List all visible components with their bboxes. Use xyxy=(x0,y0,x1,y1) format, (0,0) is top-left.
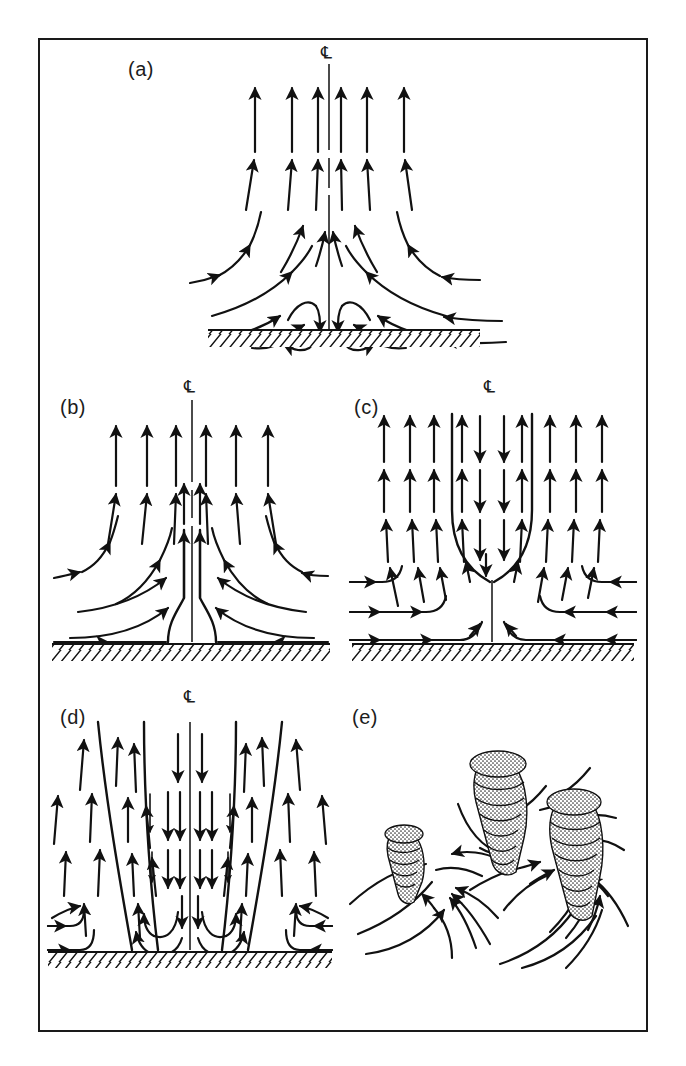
panel-d: (d) ℄ xyxy=(40,682,340,974)
panel-c-label: (c) xyxy=(354,396,379,419)
panel-e-funnel-left xyxy=(385,825,424,904)
panel-b: (b) ℄ xyxy=(40,370,340,670)
panel-e-label: (e) xyxy=(352,706,378,729)
panel-c-outer-updraft-right xyxy=(538,416,602,602)
panel-d-label: (d) xyxy=(60,706,86,729)
panel-d-ground xyxy=(48,952,332,968)
panel-a-label: (a) xyxy=(128,58,154,81)
panel-c-inner-updraft-arrows xyxy=(462,416,522,582)
panel-e-multiple-vortex-diagram xyxy=(340,682,646,974)
panel-c-inflow-right xyxy=(504,566,636,640)
panel-c: (c) ℄ xyxy=(340,370,646,670)
panel-e-funnel-right xyxy=(547,789,603,920)
panel-b-ground xyxy=(52,644,330,661)
panel-b-streamlines-right xyxy=(212,516,314,638)
panel-b-streamlines-left xyxy=(70,516,172,638)
panel-c-centerline-symbol: ℄ xyxy=(484,378,495,395)
figure-frame: (a) ℄ xyxy=(38,38,648,1032)
panel-a-centerline-symbol: ℄ xyxy=(321,44,332,61)
panel-c-ground xyxy=(352,644,634,661)
panel-d-centerline-symbol: ℄ xyxy=(184,688,195,705)
panel-c-inflow-left xyxy=(350,566,482,640)
panel-c-downdraft-arrows xyxy=(480,416,504,576)
panel-e: (e) xyxy=(340,682,646,974)
panel-b-label: (b) xyxy=(60,396,86,419)
panel-a-streamlines-right xyxy=(333,212,448,340)
panel-e-funnel-middle xyxy=(470,751,527,875)
panel-c-flow-diagram xyxy=(340,370,646,670)
panel-d-updraft-arrows-right xyxy=(224,738,326,938)
panel-b-inflow-arrows xyxy=(54,572,328,578)
panel-c-outer-updraft-left xyxy=(384,416,446,606)
panel-a-flow-diagram xyxy=(40,40,646,358)
panel-a: (a) ℄ xyxy=(40,40,646,358)
panel-a-ground xyxy=(208,330,480,347)
panel-b-centerline-symbol: ℄ xyxy=(184,378,195,395)
panel-d-updraft-arrows-left xyxy=(54,738,156,938)
panel-a-streamlines-left xyxy=(210,212,325,340)
